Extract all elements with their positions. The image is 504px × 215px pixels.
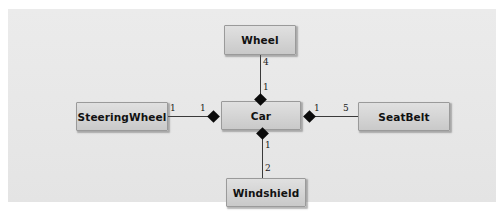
multiplicity-label-seatbelt-end: 5 — [343, 104, 349, 113]
multiplicity-label-car-end-seatbelt: 1 — [314, 104, 320, 113]
edge-car-seatbelt — [309, 116, 358, 117]
multiplicity-label-car-end-wheel: 1 — [263, 83, 269, 92]
uml-composition-diagram: 4 1 1 2 1 1 1 5 Wheel Car SteeringWheel … — [0, 0, 504, 215]
class-box-seatbelt[interactable]: SeatBelt — [358, 102, 450, 131]
class-name-car: Car — [251, 110, 271, 122]
class-box-steeringwheel[interactable]: SteeringWheel — [76, 102, 168, 131]
class-name-seatbelt: SeatBelt — [378, 111, 429, 123]
multiplicity-label-windshield-end: 2 — [265, 164, 271, 173]
multiplicity-label-wheel-end: 4 — [263, 58, 269, 67]
multiplicity-label-car-end-windshield: 1 — [265, 141, 271, 150]
composition-diamond-icon-steeringwheel — [207, 110, 220, 123]
diagram-canvas: 4 1 1 2 1 1 1 5 Wheel Car SteeringWheel … — [8, 9, 496, 202]
class-box-wheel[interactable]: Wheel — [224, 25, 296, 55]
multiplicity-label-car-end-steeringwheel: 1 — [200, 104, 206, 113]
class-name-steeringwheel: SteeringWheel — [78, 111, 167, 123]
class-box-windshield[interactable]: Windshield — [226, 178, 306, 207]
multiplicity-label-steeringwheel-end: 1 — [170, 104, 176, 113]
class-name-wheel: Wheel — [241, 34, 278, 46]
class-name-windshield: Windshield — [233, 187, 300, 199]
